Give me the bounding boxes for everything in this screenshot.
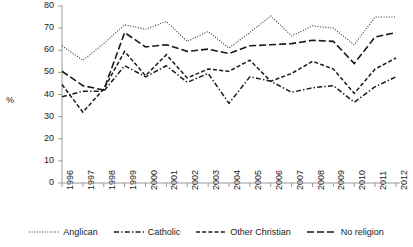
legend-label: Other Christian: [230, 227, 291, 237]
long-dash-line-icon: [307, 228, 337, 236]
x-tick-marks: [62, 183, 396, 187]
legend-label: Catholic: [148, 227, 181, 237]
legend-item-catholic[interactable]: Catholic: [114, 227, 181, 237]
legend-label: Anglican: [63, 227, 98, 237]
legend-item-no-religion[interactable]: No religion: [307, 227, 384, 237]
legend-label: No religion: [341, 227, 384, 237]
short-dash-line-icon: [196, 228, 226, 236]
legend-item-other-christian[interactable]: Other Christian: [196, 227, 291, 237]
axis-spines: [62, 5, 400, 183]
y-tick-marks: [58, 6, 62, 183]
series-group: [62, 16, 396, 112]
chart-legend: AnglicanCatholicOther ChristianNo religi…: [0, 222, 413, 242]
legend-item-anglican[interactable]: Anglican: [29, 227, 98, 237]
dash-dot-line-icon: [114, 228, 144, 236]
chart-figure: % 80706050403020100 19961997199819992000…: [0, 0, 413, 247]
dotted-line-icon: [29, 228, 59, 236]
chart-svg: [0, 0, 413, 200]
plot-area: [0, 0, 413, 200]
